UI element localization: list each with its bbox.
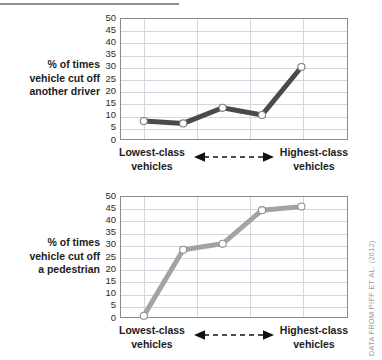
chart-panel-pedestrians: % of times vehicle cut off a pedestrian … bbox=[0, 188, 382, 360]
data-point-marker bbox=[298, 63, 305, 70]
data-point-marker bbox=[140, 312, 147, 319]
double-arrow-icon bbox=[194, 150, 274, 164]
y-axis-title-line-2: vehicle cut off bbox=[8, 250, 100, 264]
x-axis-label-highest-line-1: Highest-class bbox=[272, 146, 356, 160]
data-point-marker bbox=[258, 207, 265, 214]
y-tick-30: 30 bbox=[96, 61, 116, 71]
x-axis-label-highest-line-2: vehicles bbox=[272, 160, 356, 174]
y-axis-title-pedestrians: % of times vehicle cut off a pedestrian bbox=[8, 236, 100, 277]
y-tick-5: 5 bbox=[96, 300, 116, 310]
x-axis-label-lowest-line-1: Lowest-class bbox=[110, 146, 194, 160]
x-axis-label-highest-class: Highest-class vehicles bbox=[272, 146, 356, 173]
chart-panel-drivers: % of times vehicle cut off another drive… bbox=[0, 10, 382, 182]
top-divider-rule bbox=[0, 3, 179, 5]
x-axis-label-lowest-class: Lowest-class vehicles bbox=[110, 324, 194, 351]
y-tick-5: 5 bbox=[96, 122, 116, 132]
data-point-marker bbox=[298, 203, 305, 210]
y-tick-20: 20 bbox=[96, 86, 116, 96]
y-axis-title-line-3: another driver bbox=[8, 85, 100, 99]
y-axis-tick-labels-pedestrians: 50 45 40 35 30 25 20 15 10 5 0 bbox=[94, 196, 116, 318]
y-tick-40: 40 bbox=[96, 215, 116, 225]
line-path-drivers bbox=[144, 67, 302, 123]
y-tick-15: 15 bbox=[96, 276, 116, 286]
y-axis-title-drivers: % of times vehicle cut off another drive… bbox=[8, 58, 100, 99]
y-tick-50: 50 bbox=[96, 191, 116, 201]
x-axis-label-lowest-line-2: vehicles bbox=[110, 338, 194, 352]
y-tick-0: 0 bbox=[96, 135, 116, 145]
x-axis-label-lowest-class: Lowest-class vehicles bbox=[110, 146, 194, 173]
data-series-pedestrians bbox=[121, 197, 347, 317]
y-axis-title-line-3: a pedestrian bbox=[8, 263, 100, 277]
y-tick-35: 35 bbox=[96, 227, 116, 237]
source-credit: DATA FROM PIFF ET AL. (2012) bbox=[367, 196, 381, 356]
y-tick-25: 25 bbox=[96, 74, 116, 84]
y-tick-45: 45 bbox=[96, 25, 116, 35]
data-point-marker bbox=[219, 104, 226, 111]
data-point-marker bbox=[180, 246, 187, 253]
figure-root: % of times vehicle cut off another drive… bbox=[0, 0, 382, 360]
y-tick-50: 50 bbox=[96, 13, 116, 23]
x-axis-label-lowest-line-1: Lowest-class bbox=[110, 324, 194, 338]
x-axis-label-lowest-line-2: vehicles bbox=[110, 160, 194, 174]
y-tick-20: 20 bbox=[96, 264, 116, 274]
x-axis-caption-pedestrians: Lowest-class vehicles Highest-class vehi… bbox=[108, 324, 360, 356]
x-axis-label-highest-line-2: vehicles bbox=[272, 338, 356, 352]
y-tick-30: 30 bbox=[96, 239, 116, 249]
plot-area-pedestrians bbox=[120, 196, 348, 318]
data-point-marker bbox=[180, 120, 187, 127]
double-arrow-icon bbox=[194, 328, 274, 342]
y-tick-10: 10 bbox=[96, 110, 116, 120]
y-axis-title-line-2: vehicle cut off bbox=[8, 72, 100, 86]
marker-group-pedestrians bbox=[140, 203, 305, 319]
y-tick-40: 40 bbox=[96, 37, 116, 47]
x-axis-label-highest-line-1: Highest-class bbox=[272, 324, 356, 338]
line-path-pedestrians bbox=[144, 207, 302, 316]
data-point-marker bbox=[140, 117, 147, 124]
data-series-drivers bbox=[121, 19, 347, 139]
y-tick-10: 10 bbox=[96, 288, 116, 298]
y-tick-15: 15 bbox=[96, 98, 116, 108]
y-tick-45: 45 bbox=[96, 203, 116, 213]
x-axis-caption-drivers: Lowest-class vehicles Highest-class vehi… bbox=[108, 146, 360, 178]
data-point-marker bbox=[258, 111, 265, 118]
y-tick-25: 25 bbox=[96, 252, 116, 262]
y-tick-35: 35 bbox=[96, 49, 116, 59]
y-axis-title-line-1: % of times bbox=[8, 236, 100, 250]
data-point-marker bbox=[219, 240, 226, 247]
plot-area-drivers bbox=[120, 18, 348, 140]
y-axis-tick-labels-drivers: 50 45 40 35 30 25 20 15 10 5 0 bbox=[94, 18, 116, 140]
y-axis-title-line-1: % of times bbox=[8, 58, 100, 72]
x-axis-label-highest-class: Highest-class vehicles bbox=[272, 324, 356, 351]
y-tick-0: 0 bbox=[96, 313, 116, 323]
